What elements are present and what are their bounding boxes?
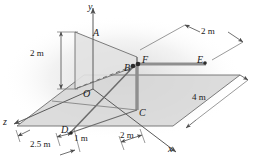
dim-arrow-beam-right: [228, 32, 243, 42]
axis-label-z: z: [3, 117, 7, 127]
point-label-B: B: [124, 63, 130, 73]
dim-label-ground-2m: 2 m: [120, 131, 134, 140]
dim-label-beam-2m: 2 m: [201, 27, 215, 36]
point-marker-F: [136, 62, 141, 67]
dim-label-vertical-2m: 2 m: [30, 49, 44, 58]
dim-label-25m: 2.5 m: [30, 140, 51, 149]
point-marker-D: [69, 131, 73, 135]
point-marker-B: [131, 64, 136, 69]
point-label-D: D: [61, 125, 68, 135]
point-label-F: F: [142, 55, 148, 65]
statics-figure: y x z A B C D E F O 2 m 2 m 4 m 2 m 2.5 …: [0, 0, 253, 167]
dim-tick-25m-left: [16, 130, 20, 142]
axis-label-y: y: [88, 2, 92, 12]
dim-label-4m: 4 m: [192, 93, 206, 102]
point-label-C: C: [139, 108, 146, 118]
dim-label-1m: 1 m: [74, 134, 88, 143]
axis-label-x: x: [168, 144, 172, 154]
dim-arrow-25m-right: [60, 150, 75, 155]
point-marker-E: [203, 61, 207, 65]
point-label-E: E: [197, 55, 203, 65]
point-label-O: O: [83, 89, 90, 99]
dim-tick-1m-left: [56, 133, 60, 146]
dim-arrow-25m-left: [18, 130, 30, 136]
point-label-A: A: [93, 28, 99, 38]
